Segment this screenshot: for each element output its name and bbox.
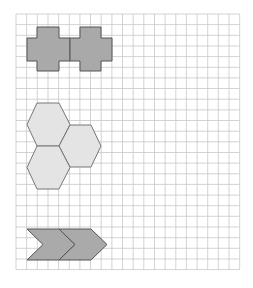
cross-tile-2 [70,27,112,71]
cross-tile-1 [27,27,70,71]
chevron-group [27,229,107,260]
tessellation-canvas [0,0,253,288]
hexagon-group [27,103,101,189]
